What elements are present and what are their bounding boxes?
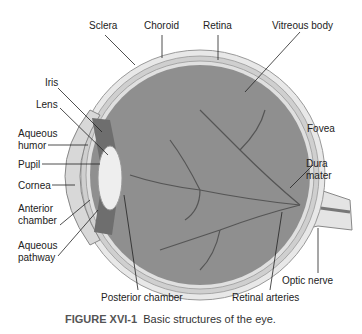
lens-shape [98,146,122,210]
label-vitreous-body: Vitreous body [272,20,333,31]
label-dura-mater-2: mater [306,170,332,181]
label-aqueous-pathway-1: Aqueous [18,240,57,251]
label-aqueous-humor-2: humor [18,140,46,151]
label-anterior-chamber-2: chamber [18,215,57,226]
label-retinal-arteries: Retinal arteries [232,292,299,303]
label-dura-mater-1: Dura [306,158,328,169]
figure-caption-text: Basic structures of the eye. [143,313,276,325]
label-lens: Lens [36,99,58,110]
label-anterior-chamber-1: Anterior [18,203,53,214]
figure-number: FIGURE XVI-1 [65,313,137,325]
label-retina: Retina [203,20,232,31]
vitreous-body-shape [90,65,310,285]
label-aqueous-pathway-2: pathway [18,252,55,263]
label-iris: Iris [45,77,58,88]
label-sclera: Sclera [89,20,117,31]
label-aqueous-humor-1: Aqueous [18,128,57,139]
label-choroid: Choroid [144,20,179,31]
label-optic-nerve: Optic nerve [282,275,333,286]
label-cornea: Cornea [18,180,51,191]
label-posterior-chamber: Posterior chamber [101,292,183,303]
label-fovea: Fovea [307,123,335,134]
label-pupil: Pupil [18,159,40,170]
figure-caption: FIGURE XVI-1 Basic structures of the eye… [65,313,276,325]
